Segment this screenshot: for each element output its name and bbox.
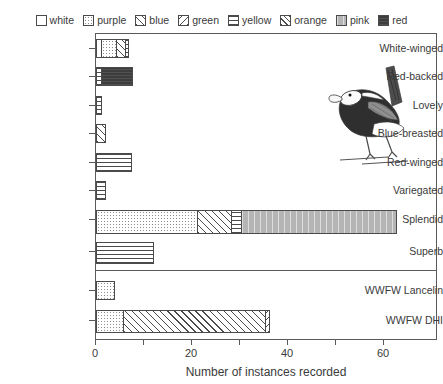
bar-segment-pink (241, 210, 397, 234)
x-tick-10 (143, 340, 144, 345)
group-separator-line (95, 270, 437, 271)
legend-swatch-red-icon (378, 15, 389, 26)
legend-item-orange[interactable]: orange (280, 15, 327, 26)
x-tick-40 (287, 340, 288, 345)
stacked-bar-blue-breasted (96, 124, 106, 143)
y-tick-superb (89, 251, 95, 252)
x-ticklabel-40: 40 (272, 347, 302, 359)
stacked-bar-red-backed (96, 67, 133, 86)
x-tick-60 (383, 340, 384, 345)
bar-segment-purple (96, 310, 123, 333)
stacked-bar-red-winged (96, 153, 132, 172)
bar-segment-yellow (96, 96, 102, 115)
legend-label-orange: orange (294, 15, 327, 26)
legend-label-yellow: yellow (242, 15, 271, 26)
legend-swatch-white-icon (36, 15, 47, 26)
stacked-bar-wwfw-dhi (96, 310, 270, 333)
x-ticklabel-20: 20 (176, 347, 206, 359)
y-label-red-backed: Red-backed (351, 71, 443, 82)
bar-segment-purple (96, 210, 197, 234)
legend-label-pink: pink (350, 15, 369, 26)
legend-item-blue[interactable]: blue (135, 15, 169, 26)
stacked-bar-wwfw-lancelin (96, 281, 115, 300)
legend-label-white: white (50, 15, 75, 26)
bar-segment-green (265, 310, 270, 333)
legend-swatch-blue-icon (135, 15, 146, 26)
y-label-red-winged: Red-winged (351, 157, 443, 168)
y-label-variegated: Variegated (351, 185, 443, 196)
bar-segment-yellow (125, 39, 129, 58)
legend-item-green[interactable]: green (178, 15, 219, 26)
legend-item-yellow[interactable]: yellow (228, 15, 271, 26)
x-axis-title: Number of instances recorded (95, 365, 437, 379)
y-label-blue-breasted: Blue-breasted (351, 128, 443, 139)
legend-swatch-pink-icon (336, 15, 347, 26)
legend-swatch-green-icon (178, 15, 189, 26)
y-tick-red-backed (89, 76, 95, 77)
x-tick-20 (191, 340, 192, 345)
y-tick-wwfw-dhi (89, 320, 95, 321)
y-label-lovely: Lovely (351, 100, 443, 111)
bar-segment-red (101, 67, 133, 86)
bar-segment-yellow (96, 242, 154, 264)
legend-label-green: green (192, 15, 219, 26)
y-label-white-winged: White-winged (351, 43, 443, 54)
x-tick-50 (335, 340, 336, 345)
stacked-bar-variegated (96, 181, 106, 200)
y-tick-red-winged (89, 162, 95, 163)
legend-label-red: red (392, 15, 407, 26)
stacked-bar-splendid (96, 210, 397, 234)
bar-segment-yellow (96, 181, 106, 200)
y-tick-variegated (89, 190, 95, 191)
bar-segment-blue (116, 39, 125, 58)
stacked-bar-superb (96, 242, 154, 264)
legend-swatch-yellow-icon (228, 15, 239, 26)
bar-segment-blue (123, 310, 265, 333)
x-ticklabel-60: 60 (368, 347, 398, 359)
y-label-superb: Superb (351, 246, 443, 257)
legend-item-white[interactable]: white (36, 15, 75, 26)
stacked-bar-lovely (96, 96, 102, 115)
bar-segment-blue (96, 124, 106, 143)
x-tick-0 (95, 340, 96, 345)
legend-swatch-purple-icon (83, 15, 94, 26)
legend-item-purple[interactable]: purple (83, 15, 126, 26)
bar-segment-blue (197, 210, 231, 234)
bar-segment-yellow (96, 153, 132, 172)
legend-label-purple: purple (97, 15, 126, 26)
y-tick-splendid (89, 219, 95, 220)
y-tick-white-winged (89, 48, 95, 49)
chart-legend: white purple blue green yellow orange pi… (0, 12, 443, 28)
y-label-wwfw-lancelin: WWFW Lancelin (351, 285, 443, 296)
stacked-bar-white-winged (96, 39, 129, 58)
x-tick-30 (239, 340, 240, 345)
y-label-wwfw-dhi: WWFW DHI (351, 315, 443, 326)
bar-segment-purple (101, 39, 116, 58)
legend-swatch-orange-icon (280, 15, 291, 26)
y-tick-blue-breasted (89, 133, 95, 134)
legend-label-blue: blue (149, 15, 169, 26)
stacked-bar-chart: white purple blue green yellow orange pi… (0, 0, 443, 384)
legend-item-red[interactable]: red (378, 15, 407, 26)
legend-item-pink[interactable]: pink (336, 15, 369, 26)
bar-segment-purple (96, 281, 115, 300)
x-ticklabel-0: 0 (80, 347, 110, 359)
bar-segment-yellow (231, 210, 241, 234)
y-tick-lovely (89, 105, 95, 106)
y-tick-wwfw-lancelin (89, 290, 95, 291)
